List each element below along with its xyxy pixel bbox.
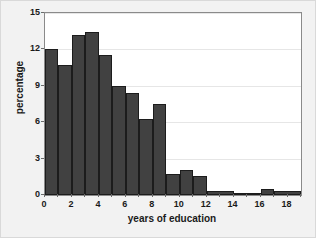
bar [99, 55, 112, 195]
y-tick-mark [41, 12, 44, 13]
y-tick-mark [41, 121, 44, 122]
x-tick-label: 14 [221, 199, 245, 209]
x-tick-label: 16 [248, 199, 272, 209]
bar [58, 65, 71, 195]
x-tick-label: 4 [86, 199, 110, 209]
x-tick-mark [260, 194, 261, 197]
x-tick-mark [246, 194, 247, 197]
x-tick-label: 18 [275, 199, 299, 209]
x-tick-mark [152, 194, 153, 197]
x-tick-mark [57, 194, 58, 197]
y-tick-label: 15 [18, 8, 40, 17]
x-tick-label: 6 [113, 199, 137, 209]
bar [112, 86, 125, 195]
bar [126, 93, 139, 195]
x-tick-label: 0 [32, 199, 56, 209]
x-tick-mark [219, 194, 220, 197]
bar [166, 174, 179, 195]
y-tick-mark [41, 158, 44, 159]
bar [193, 176, 206, 195]
x-tick-mark [138, 194, 139, 197]
x-tick-mark [206, 194, 207, 197]
x-tick-mark [84, 194, 85, 197]
x-tick-mark [111, 194, 112, 197]
bar [85, 32, 98, 195]
x-tick-label: 2 [59, 199, 83, 209]
x-tick-label: 12 [194, 199, 218, 209]
x-tick-mark [98, 194, 99, 197]
y-tick-mark [41, 85, 44, 86]
histogram-figure: 03691215 024681012141618 years of educat… [0, 0, 316, 238]
y-tick-label: 3 [18, 154, 40, 163]
bar [72, 35, 85, 195]
x-tick-mark [165, 194, 166, 197]
x-tick-mark [44, 194, 45, 197]
x-tick-mark [287, 194, 288, 197]
plot-area [44, 12, 302, 196]
bar [234, 193, 261, 195]
bar [45, 49, 58, 195]
bar [139, 119, 152, 195]
x-tick-mark [300, 194, 301, 197]
bar [180, 170, 193, 195]
bar-series [45, 13, 301, 195]
x-tick-mark [125, 194, 126, 197]
y-axis-title: percentage [14, 43, 25, 133]
x-tick-mark [192, 194, 193, 197]
y-tick-mark [41, 48, 44, 49]
bar [274, 191, 301, 195]
x-tick-mark [273, 194, 274, 197]
x-tick-mark [71, 194, 72, 197]
x-axis-title: years of education [44, 213, 300, 224]
bar [261, 189, 274, 195]
x-tick-label: 8 [140, 199, 164, 209]
bar [153, 104, 166, 195]
x-tick-mark [179, 194, 180, 197]
x-tick-mark [233, 194, 234, 197]
y-tick-label: 0 [18, 190, 40, 199]
x-tick-label: 10 [167, 199, 191, 209]
